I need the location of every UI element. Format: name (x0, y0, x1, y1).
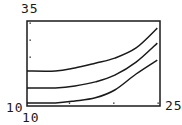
y-max-label: 35 (21, 2, 39, 15)
y-tick-mark (30, 57, 31, 58)
x-tick-mark (113, 103, 114, 104)
curve-3 (27, 60, 157, 103)
y-tick-mark (30, 23, 31, 24)
curves (27, 28, 157, 103)
x-tick-mark (69, 103, 70, 104)
curve-2 (27, 43, 157, 88)
y-min-label: 10 (6, 101, 24, 114)
x-tick-mark (158, 103, 159, 104)
x-min-label: 10 (22, 111, 40, 124)
curve-1 (27, 28, 157, 71)
x-max-label: 25 (165, 99, 182, 112)
graph-window (0, 0, 182, 125)
y-tick-mark (30, 40, 31, 41)
